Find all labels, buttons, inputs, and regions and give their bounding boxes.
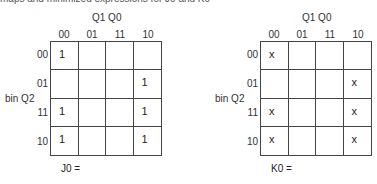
kmap-j0: Q1 Q0 00 01 11 10 00 01 11 10 bin Q2 1 1… — [0, 0, 190, 184]
kmap-cell: 1 — [51, 99, 79, 127]
kmap-cell: x — [344, 99, 372, 127]
kmap-cell — [79, 70, 107, 98]
row-label: 10 — [238, 136, 258, 147]
kmap-cell — [106, 70, 134, 98]
kmap-cell — [289, 70, 317, 98]
kmap-cell: x — [261, 127, 289, 155]
kmap-cell: x — [261, 99, 289, 127]
row-label: 11 — [238, 107, 258, 118]
kmap-cell — [289, 127, 317, 155]
row-variable-label: bin Q2 — [5, 93, 34, 104]
column-label: 11 — [316, 29, 344, 40]
kmap-k0: Q1 Q0 00 01 11 10 00 01 11 10 bin Q2 x x… — [210, 0, 377, 184]
row-label: 11 — [28, 107, 48, 118]
column-label: 00 — [260, 29, 288, 40]
kmap-cell — [316, 127, 344, 155]
column-label: 10 — [344, 29, 372, 40]
column-label: 01 — [288, 29, 316, 40]
column-label: 10 — [134, 29, 162, 40]
column-label: 00 — [50, 29, 78, 40]
kmap-cell — [51, 70, 79, 98]
row-label: 01 — [28, 78, 48, 89]
kmap-grid: 1 1 1 1 1 1 — [50, 41, 162, 156]
kmap-cell: 1 — [51, 42, 79, 70]
kmap-cell — [79, 127, 107, 155]
kmap-cell: 1 — [51, 127, 79, 155]
row-label: 00 — [238, 49, 258, 60]
kmap-cell: 1 — [134, 127, 162, 155]
expression-label: J0 = — [61, 163, 80, 174]
kmap-cell — [261, 70, 289, 98]
kmap-cell: x — [261, 42, 289, 70]
column-variable-label: Q1 Q0 — [92, 12, 121, 23]
kmap-cell — [316, 42, 344, 70]
expression-label: K0 = — [271, 163, 292, 174]
kmap-cell — [316, 99, 344, 127]
column-label: 11 — [106, 29, 134, 40]
kmap-cell: x — [344, 127, 372, 155]
column-variable-label: Q1 Q0 — [302, 12, 331, 23]
row-variable-label: bin Q2 — [215, 93, 244, 104]
kmap-cell — [106, 127, 134, 155]
kmap-cell — [106, 42, 134, 70]
kmap-cell — [344, 42, 372, 70]
kmap-cell — [106, 99, 134, 127]
kmap-grid: x x x x x x — [260, 41, 372, 156]
kmap-cell: 1 — [134, 99, 162, 127]
row-label: 01 — [238, 78, 258, 89]
kmap-cell — [289, 42, 317, 70]
kmap-cell — [134, 42, 162, 70]
kmap-cell: x — [344, 70, 372, 98]
kmap-cell — [79, 99, 107, 127]
row-label: 10 — [28, 136, 48, 147]
row-label: 00 — [28, 49, 48, 60]
kmap-cell — [316, 70, 344, 98]
column-label: 01 — [78, 29, 106, 40]
kmap-cell — [289, 99, 317, 127]
kmap-cell — [79, 42, 107, 70]
kmap-cell: 1 — [134, 70, 162, 98]
